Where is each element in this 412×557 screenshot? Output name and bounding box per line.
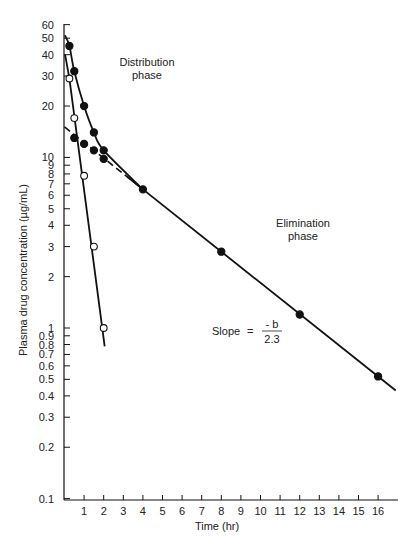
y-tick-label: 3	[48, 241, 54, 253]
filled-data-point	[81, 102, 88, 109]
filled-data-point	[296, 311, 303, 318]
x-tick-label: 9	[238, 505, 244, 517]
y-tick-label: 5	[48, 203, 54, 215]
y-tick-label: 0.1	[39, 493, 54, 505]
filled-data-point	[139, 186, 146, 193]
x-axis-title: Time (hr)	[195, 520, 239, 532]
y-tick-label: 0.2	[39, 441, 54, 453]
y-tick-label: 6	[48, 189, 54, 201]
axes	[64, 24, 398, 500]
y-ticks: 0.10.20.30.40.50.60.70.80.91234567891020…	[39, 19, 70, 505]
x-tick-label: 10	[254, 505, 266, 517]
y-tick-label: 0.3	[39, 411, 54, 423]
slope-denominator: 2.3	[264, 333, 279, 345]
filled-data-point	[218, 248, 225, 255]
filled-data-point	[100, 147, 107, 154]
y-tick-label: 40	[42, 49, 54, 61]
elimination-phase-label: Elimination	[276, 217, 330, 229]
y-tick-label: 20	[42, 100, 54, 112]
x-tick-label: 5	[159, 505, 165, 517]
open-data-point	[81, 172, 88, 179]
x-tick-label: 1	[81, 505, 87, 517]
x-tick-label: 14	[333, 505, 345, 517]
filled-data-point	[90, 129, 97, 136]
x-ticks: 12345678910111213141516	[81, 495, 384, 517]
filled-data-point	[66, 42, 73, 49]
filled-data-point	[71, 134, 78, 141]
y-tick-label: 0.4	[39, 390, 54, 402]
y-tick-label: 0.5	[39, 373, 54, 385]
x-tick-label: 3	[120, 505, 126, 517]
y-tick-label: 50	[42, 32, 54, 44]
y-tick-label: 4	[48, 219, 54, 231]
open-data-point	[66, 75, 73, 82]
slope-annotation: Slope = - b 2.3	[212, 318, 282, 345]
filled-data-point	[71, 68, 78, 75]
pharmacokinetic-chart: 0.10.20.30.40.50.60.70.80.91234567891020…	[0, 0, 412, 557]
y-tick-label: 1	[48, 322, 54, 334]
y-tick-label: 2	[48, 271, 54, 283]
y-tick-label: 60	[42, 19, 54, 31]
x-tick-label: 12	[294, 505, 306, 517]
elimination-line	[127, 177, 396, 391]
x-tick-label: 4	[140, 505, 146, 517]
slope-numerator: - b	[266, 318, 279, 330]
distribution-phase-label: Distribution	[119, 56, 174, 68]
open-data-point	[100, 325, 107, 332]
x-tick-label: 8	[218, 505, 224, 517]
y-tick-label: 10	[42, 151, 54, 163]
open-data-point	[71, 115, 78, 122]
plot-area	[65, 35, 396, 390]
x-tick-label: 13	[313, 505, 325, 517]
x-tick-label: 6	[179, 505, 185, 517]
y-tick-label: 0.6	[39, 360, 54, 372]
filled-data-point	[375, 373, 382, 380]
slope-label: Slope	[212, 325, 240, 337]
elimination-phase-label-2: phase	[288, 230, 318, 242]
x-tick-label: 7	[199, 505, 205, 517]
x-tick-label: 2	[101, 505, 107, 517]
filled-data-point	[90, 147, 97, 154]
y-tick-label: 30	[42, 70, 54, 82]
slope-equals: =	[247, 325, 253, 337]
open-data-point	[91, 243, 98, 250]
distribution-phase-label-2: phase	[132, 69, 162, 81]
y-axis-title: Plasma drug concentration (µg/mL)	[17, 184, 29, 356]
x-tick-label: 15	[352, 505, 364, 517]
filled-data-point	[100, 155, 107, 162]
x-tick-label: 16	[372, 505, 384, 517]
distribution-line	[65, 55, 105, 347]
filled-data-point	[81, 140, 88, 147]
x-tick-label: 11	[274, 505, 285, 517]
